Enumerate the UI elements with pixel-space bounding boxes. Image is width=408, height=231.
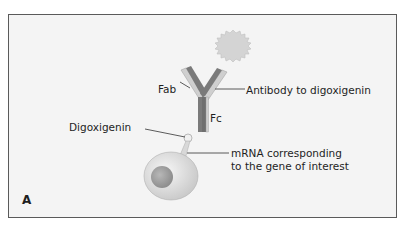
reporter-enzyme-icon <box>215 30 251 62</box>
panel-label: A <box>22 193 31 207</box>
fab-leader-line <box>180 82 190 88</box>
mrna-label-line1: mRNA corresponding <box>231 147 342 159</box>
nucleus-icon <box>151 166 173 188</box>
digoxigenin-label: Digoxigenin <box>69 121 131 133</box>
mrna-label-line2: to the gene of interest <box>231 160 349 172</box>
diagram-art <box>0 0 408 231</box>
fc-label: Fc <box>210 112 222 124</box>
antibody-label: Antibody to digoxigenin <box>246 84 371 96</box>
digoxigenin-leader-line <box>145 129 185 137</box>
fab-label: Fab <box>158 83 176 95</box>
